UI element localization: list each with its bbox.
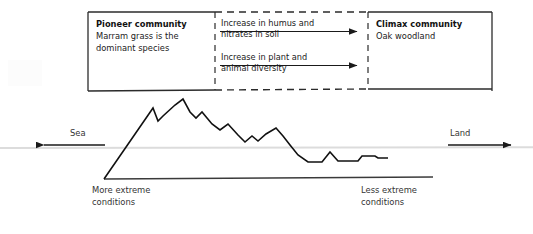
arrow-label-humus-nitrates: Increase in humus and nitrates in soil (221, 18, 314, 41)
land-label: Land (450, 128, 470, 140)
sea-label: Sea (70, 128, 86, 140)
pioneer-community-heading: Pioneer community (96, 19, 187, 31)
arrow-label-plant-animal-diversity: Increase in plant and animal diversity (221, 52, 307, 75)
climax-community-description: Oak woodland (376, 31, 435, 43)
more-extreme-conditions-label: More extreme conditions (92, 185, 150, 209)
dune-profile-line (104, 99, 388, 179)
climax-community-heading: Climax community (376, 19, 462, 31)
less-extreme-conditions-label: Less extreme conditions (361, 185, 417, 209)
ground-baseline (104, 177, 433, 179)
pioneer-community-description: Marram grass is the dominant species (96, 31, 179, 54)
sea-level-line (0, 147, 533, 148)
diagram-canvas: Pioneer community Marram grass is the do… (0, 0, 533, 234)
